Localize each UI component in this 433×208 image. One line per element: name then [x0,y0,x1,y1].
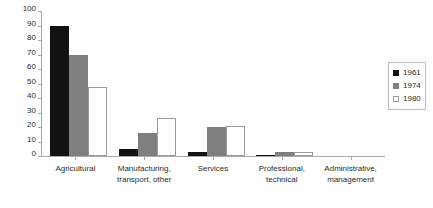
y-axis-tick-label: 10 [27,136,36,144]
bar-group [179,11,248,156]
legend-swatch-icon-1980 [393,96,399,102]
x-axis-category-label: Manufacturing, transport, other [110,163,179,185]
legend-label-1980: 1980 [403,95,421,103]
bar-1974[interactable] [69,55,88,157]
bar-1961[interactable] [256,155,275,156]
bar-1980[interactable] [226,126,245,156]
legend-label-1961: 1961 [403,69,421,77]
y-axis-tick-label: 60 [27,63,36,71]
bar-1980[interactable] [157,118,176,156]
x-axis-category-label: Agricultural [41,163,110,174]
legend-item-1980[interactable]: 1980 [393,93,421,105]
legend-item-1961[interactable]: 1961 [393,67,421,79]
y-axis-tick-label: 40 [27,92,36,100]
x-axis-category-label: Administrative, management [316,163,385,185]
legend-label-1974: 1974 [403,82,421,90]
x-axis-tick-mark [75,156,76,160]
y-axis-tick-mark [38,156,41,157]
legend-item-1974[interactable]: 1974 [393,80,421,92]
bar-chart: 1009080706050403020100 AgriculturalManuf… [0,0,433,208]
x-axis-category-label: Services [179,163,248,174]
bar-1974[interactable] [207,127,226,156]
bar-group [316,11,385,156]
y-axis-tick-label: 90 [27,20,36,28]
y-axis-tick-label: 50 [27,78,36,86]
x-axis-tick-mark [282,156,283,160]
y-axis-tick-label: 70 [27,49,36,57]
y-axis-tick-label: 0 [32,150,36,158]
bar-1980[interactable] [88,87,107,156]
legend-swatch-icon-1961 [393,70,399,76]
y-axis-tick-label: 30 [27,107,36,115]
y-axis-tick-label: 80 [27,34,36,42]
bar-1961[interactable] [50,26,69,157]
x-axis-tick-mark [351,156,352,160]
bar-group [247,11,316,156]
bar-1961[interactable] [188,152,207,156]
y-axis-tick-label: 20 [27,121,36,129]
x-axis-tick-mark [213,156,214,160]
bar-1980[interactable] [294,152,313,156]
bar-1974[interactable] [275,152,294,156]
legend-swatch-icon-1974 [393,83,399,89]
legend: 1961 1974 1980 [388,62,426,110]
x-axis-tick-mark [144,156,145,160]
y-axis-tick-label: 100 [23,5,36,13]
bar-1961[interactable] [119,149,138,156]
bar-group [110,11,179,156]
x-axis-category-label: Professional, technical [247,163,316,185]
bar-1974[interactable] [138,133,157,156]
bar-group [41,11,110,156]
